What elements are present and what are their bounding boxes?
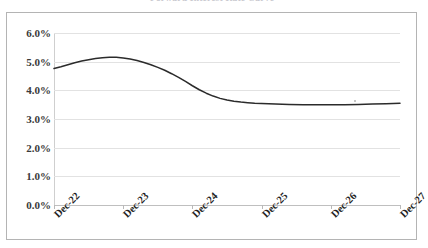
series-line-chart	[54, 33, 400, 205]
y-tick-label: 3.0%	[11, 114, 51, 125]
plot-area	[54, 33, 400, 205]
x-axis-tick-labels: Dec-22 Dec-23 Dec-24 Dec-25 Dec-26 Dec-2…	[54, 212, 414, 248]
y-tick-label: 5.0%	[11, 56, 51, 67]
series-line-forward-rate	[54, 57, 400, 104]
y-tick-label: 0.0%	[11, 200, 51, 211]
x-tick-label: Dec-27	[398, 190, 428, 220]
y-tick-label: 2.0%	[11, 142, 51, 153]
chart-title: Forward Interest Rate Curve	[0, 0, 424, 4]
y-tick-label: 6.0%	[11, 28, 51, 39]
y-tick-label: 4.0%	[11, 85, 51, 96]
y-axis-tick-labels: 6.0% 5.0% 4.0% 3.0% 2.0% 1.0% 0.0%	[7, 33, 51, 205]
y-tick-label: 1.0%	[11, 171, 51, 182]
plot-frame: 6.0% 5.0% 4.0% 3.0% 2.0% 1.0% 0.0%	[6, 12, 417, 240]
